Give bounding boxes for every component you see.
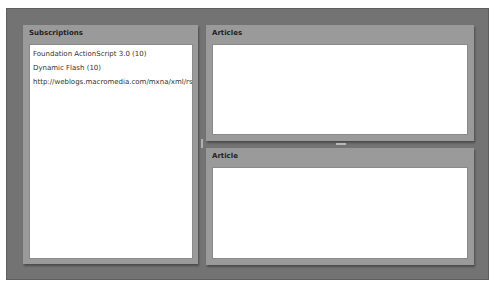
application-frame: Subscriptions Foundation ActionScript 3.… (6, 8, 489, 280)
article-content[interactable] (212, 167, 468, 259)
subscription-item[interactable]: Dynamic Flash (10) (30, 61, 192, 75)
vertical-divider-handle-icon[interactable] (201, 139, 203, 148)
subscriptions-panel-title: Subscriptions (29, 29, 83, 37)
article-panel: Article (206, 148, 474, 265)
articles-panel: Articles (206, 25, 474, 141)
articles-list[interactable] (212, 44, 468, 135)
subscription-item[interactable]: http://weblogs.macromedia.com/mxna/xml/r… (30, 75, 192, 89)
article-panel-title: Article (212, 152, 238, 160)
horizontal-divider-handle-icon[interactable] (336, 143, 346, 145)
subscription-item[interactable]: Foundation ActionScript 3.0 (10) (30, 47, 192, 61)
articles-panel-title: Articles (212, 29, 242, 37)
subscriptions-panel: Subscriptions Foundation ActionScript 3.… (23, 25, 198, 264)
subscriptions-list[interactable]: Foundation ActionScript 3.0 (10) Dynamic… (29, 44, 193, 259)
